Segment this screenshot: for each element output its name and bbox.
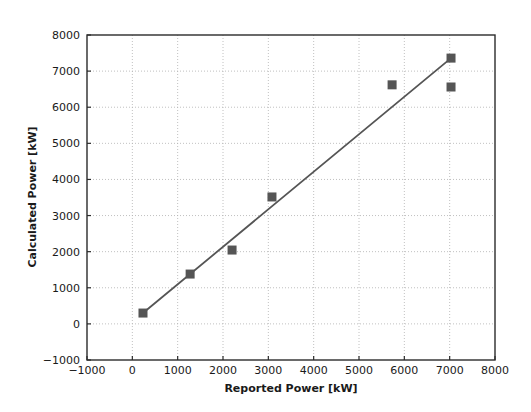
y-tick-label: 5000	[52, 137, 80, 150]
y-tick-label: −1000	[43, 354, 80, 367]
y-tick-label: 0	[73, 318, 80, 331]
data-point-marker	[388, 80, 397, 89]
x-tick-label: 8000	[481, 364, 509, 377]
y-tick-label: 1000	[52, 282, 80, 295]
x-tick-label: 2000	[209, 364, 237, 377]
x-tick-label: 5000	[345, 364, 373, 377]
data-point-marker	[267, 192, 276, 201]
x-tick-label: 7000	[436, 364, 464, 377]
x-tick-label: 4000	[300, 364, 328, 377]
x-axis-title: Reported Power [kW]	[224, 382, 357, 395]
data-point-marker	[186, 270, 195, 279]
y-axis-title: Calculated Power [kW]	[26, 126, 39, 267]
y-tick-label: 4000	[52, 173, 80, 186]
data-point-marker	[447, 54, 456, 63]
plot-area-background	[87, 35, 495, 360]
y-tick-label: 2000	[52, 246, 80, 259]
y-tick-label: 8000	[52, 29, 80, 42]
x-tick-label: 1000	[164, 364, 192, 377]
data-point-marker	[228, 246, 237, 255]
x-tick-label: 6000	[390, 364, 418, 377]
data-point-marker	[447, 83, 456, 92]
data-point-marker	[138, 309, 147, 318]
scatter-plot-svg: −1000010002000300040005000600070008000−1…	[0, 0, 531, 412]
y-tick-label: 3000	[52, 210, 80, 223]
y-tick-label: 7000	[52, 65, 80, 78]
y-tick-label: 6000	[52, 101, 80, 114]
chart-figure: −1000010002000300040005000600070008000−1…	[0, 0, 531, 412]
x-tick-label: 3000	[254, 364, 282, 377]
x-tick-label: 0	[129, 364, 136, 377]
